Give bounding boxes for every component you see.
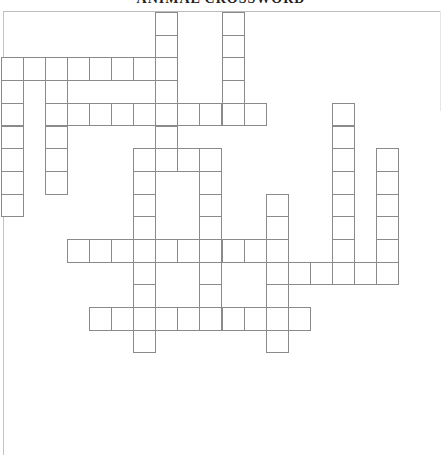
crossword-cell[interactable] [376,171,399,195]
crossword-cell[interactable] [155,103,178,127]
crossword-cell[interactable] [310,262,333,286]
crossword-cell[interactable] [67,57,90,81]
crossword-cell[interactable] [155,126,178,150]
crossword-cell[interactable] [177,307,200,331]
crossword-cell[interactable] [111,307,134,331]
crossword-cell[interactable] [266,194,289,218]
crossword-cell[interactable] [332,216,355,240]
crossword-cell[interactable] [332,262,355,286]
crossword-cell[interactable] [133,103,156,127]
crossword-cell[interactable] [244,239,267,263]
crossword-cell[interactable] [1,80,24,104]
crossword-cell[interactable] [45,126,68,150]
crossword-cell[interactable] [376,216,399,240]
crossword-cell[interactable] [288,307,311,331]
crossword-cell[interactable] [1,103,24,127]
crossword-cell[interactable] [222,35,245,59]
crossword-cell[interactable] [1,171,24,195]
crossword-cell[interactable] [155,12,178,36]
crossword-cell[interactable] [111,103,134,127]
crossword-cell[interactable] [177,239,200,263]
crossword-cell[interactable] [266,307,289,331]
crossword-cell[interactable] [199,103,222,127]
crossword-cell[interactable] [376,262,399,286]
crossword-cell[interactable] [177,148,200,172]
crossword-cell[interactable] [133,148,156,172]
crossword-cell[interactable] [199,239,222,263]
crossword-cell[interactable] [266,239,289,263]
crossword-cell[interactable] [177,103,200,127]
crossword-cell[interactable] [155,35,178,59]
crossword-cell[interactable] [199,171,222,195]
crossword-cell[interactable] [354,262,377,286]
crossword-cell[interactable] [266,330,289,354]
crossword-cell[interactable] [67,103,90,127]
crossword-cell[interactable] [199,262,222,286]
crossword-cell[interactable] [376,148,399,172]
crossword-cell[interactable] [288,262,311,286]
crossword-cell[interactable] [1,194,24,218]
crossword-cell[interactable] [222,103,245,127]
crossword-cell[interactable] [332,148,355,172]
crossword-cell[interactable] [244,103,267,127]
crossword-cell[interactable] [133,284,156,308]
crossword-cell[interactable] [332,103,355,127]
crossword-cell[interactable] [45,148,68,172]
crossword-cell[interactable] [133,194,156,218]
crossword-cell[interactable] [133,330,156,354]
crossword-cell[interactable] [1,57,24,81]
crossword-cell[interactable] [244,307,267,331]
crossword-cell[interactable] [266,216,289,240]
crossword-cell[interactable] [199,148,222,172]
crossword-cell[interactable] [23,57,46,81]
crossword-cell[interactable] [199,194,222,218]
crossword-cell[interactable] [1,126,24,150]
crossword-cell[interactable] [45,80,68,104]
crossword-cell[interactable] [45,171,68,195]
crossword-cell[interactable] [199,307,222,331]
crossword-cell[interactable] [332,239,355,263]
crossword-cell[interactable] [155,307,178,331]
crossword-cell[interactable] [45,57,68,81]
crossword-cell[interactable] [155,148,178,172]
crossword-cell[interactable] [45,103,68,127]
crossword-cell[interactable] [155,80,178,104]
crossword-cell[interactable] [133,262,156,286]
crossword-cell[interactable] [266,262,289,286]
crossword-cell[interactable] [111,239,134,263]
crossword-cell[interactable] [133,239,156,263]
crossword-cell[interactable] [133,171,156,195]
crossword-cell[interactable] [332,194,355,218]
crossword-cell[interactable] [376,239,399,263]
crossword-cell[interactable] [266,284,289,308]
crossword-cell[interactable] [155,57,178,81]
crossword-cell[interactable] [155,239,178,263]
crossword-cell[interactable] [199,216,222,240]
crossword-cell[interactable] [222,12,245,36]
crossword-grid [0,0,442,455]
crossword-cell[interactable] [199,284,222,308]
crossword-cell[interactable] [222,80,245,104]
crossword-cell[interactable] [89,307,112,331]
crossword-cell[interactable] [89,57,112,81]
crossword-cell[interactable] [133,216,156,240]
crossword-cell[interactable] [332,171,355,195]
crossword-cell[interactable] [89,103,112,127]
crossword-cell[interactable] [67,239,90,263]
crossword-cell[interactable] [222,57,245,81]
crossword-cell[interactable] [222,239,245,263]
crossword-cell[interactable] [222,307,245,331]
crossword-cell[interactable] [89,239,112,263]
crossword-cell[interactable] [376,194,399,218]
crossword-cell[interactable] [332,126,355,150]
crossword-cell[interactable] [1,148,24,172]
crossword-cell[interactable] [133,307,156,331]
crossword-cell[interactable] [111,57,134,81]
crossword-cell[interactable] [133,57,156,81]
